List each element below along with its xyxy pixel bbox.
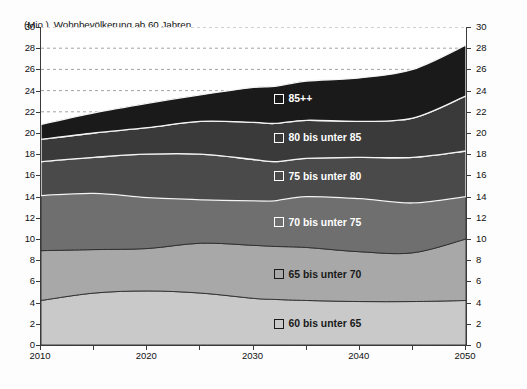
- y-axis-tick-label: 10: [9, 234, 35, 244]
- y-axis-tick-label: 24: [9, 86, 35, 96]
- y-axis-tick-mark: [466, 175, 471, 176]
- y-axis-tick-mark: [36, 27, 41, 28]
- y-axis-tick-label: 16: [9, 170, 35, 180]
- y-axis-tick-mark: [36, 281, 41, 282]
- y-axis-tick-mark: [466, 27, 471, 28]
- y-axis-tick-label: 4: [9, 298, 35, 308]
- legend-item-2[interactable]: 65 bis unter 70: [274, 269, 362, 280]
- y-axis-tick-mark: [36, 69, 41, 70]
- y-axis-tick-label: 22: [9, 107, 35, 117]
- y-axis-tick-label: 28: [476, 43, 502, 53]
- y-axis-tick-mark: [466, 112, 471, 113]
- x-axis-tick-label: 2050: [445, 351, 485, 361]
- y-axis-tick-label: 8: [476, 255, 502, 265]
- y-axis-tick-mark: [36, 324, 41, 325]
- y-axis-tick-mark: [466, 239, 471, 240]
- y-axis-tick-label: 0: [9, 340, 35, 350]
- legend-label: 80 bis unter 85: [289, 132, 362, 143]
- y-axis-tick-mark: [36, 48, 41, 49]
- y-axis-tick-label: 24: [476, 86, 502, 96]
- y-axis-tick-mark: [466, 154, 471, 155]
- x-axis-tick-mark: [465, 346, 466, 350]
- y-axis-tick-mark: [466, 133, 471, 134]
- y-axis-tick-label: 12: [9, 213, 35, 223]
- legend-swatch-icon: [274, 171, 284, 181]
- x-axis-tick-label: 2030: [233, 351, 273, 361]
- y-axis-tick-label: 18: [476, 149, 502, 159]
- legend-swatch-icon: [274, 269, 284, 279]
- y-axis-tick-label: 14: [476, 192, 502, 202]
- y-axis-tick-label: 30: [476, 22, 502, 32]
- y-axis-tick-mark: [466, 345, 471, 346]
- y-axis-tick-mark: [36, 239, 41, 240]
- legend-swatch-icon: [274, 133, 284, 143]
- y-axis-tick-mark: [466, 69, 471, 70]
- legend-swatch-icon: [274, 94, 284, 104]
- x-axis-tick-mark: [412, 346, 413, 350]
- x-axis-tick-label: 2040: [339, 351, 379, 361]
- y-axis-tick-mark: [466, 197, 471, 198]
- area-stack: [41, 27, 466, 345]
- legend-item-3[interactable]: 70 bis unter 75: [274, 217, 362, 228]
- legend-label: 75 bis unter 80: [289, 171, 362, 182]
- legend-label: 65 bis unter 70: [289, 269, 362, 280]
- y-axis-tick-mark: [36, 112, 41, 113]
- legend-item-1[interactable]: 60 bis unter 65: [274, 318, 362, 329]
- legend-label: 70 bis unter 75: [289, 217, 362, 228]
- legend-item-5[interactable]: 80 bis unter 85: [274, 132, 362, 143]
- y-axis-tick-label: 12: [476, 213, 502, 223]
- y-axis-tick-label: 26: [9, 64, 35, 74]
- x-axis-tick-mark: [146, 346, 147, 350]
- legend-item-6[interactable]: 85++: [274, 93, 313, 104]
- y-axis-tick-label: 16: [476, 170, 502, 180]
- y-axis-tick-label: 4: [476, 298, 502, 308]
- y-axis-tick-mark: [466, 303, 471, 304]
- y-axis-tick-mark: [36, 303, 41, 304]
- y-axis-tick-label: 28: [9, 43, 35, 53]
- y-axis-tick-label: 20: [9, 128, 35, 138]
- legend-label: 85++: [289, 93, 313, 104]
- y-axis-tick-mark: [36, 260, 41, 261]
- x-axis-tick-mark: [306, 346, 307, 350]
- y-axis-tick-mark: [466, 260, 471, 261]
- legend-swatch-icon: [274, 319, 284, 329]
- y-axis-tick-label: 14: [9, 192, 35, 202]
- y-axis-tick-mark: [466, 48, 471, 49]
- x-axis-tick-mark: [40, 346, 41, 350]
- x-axis-tick-label: 2020: [126, 351, 166, 361]
- legend-label: 60 bis unter 65: [289, 318, 362, 329]
- y-axis-tick-label: 6: [9, 276, 35, 286]
- x-axis-tick-mark: [93, 346, 94, 350]
- y-axis-tick-label: 8: [9, 255, 35, 265]
- chart-figure: (Mio.)Wohnbevölkerung ab 60 Jahren 02468…: [0, 0, 527, 389]
- y-axis-tick-mark: [36, 133, 41, 134]
- y-axis-tick-label: 22: [476, 107, 502, 117]
- y-axis-tick-mark: [36, 197, 41, 198]
- y-axis-tick-label: 2: [476, 319, 502, 329]
- y-axis-tick-mark: [466, 324, 471, 325]
- y-axis-tick-mark: [36, 175, 41, 176]
- y-axis-tick-label: 30: [9, 22, 35, 32]
- x-axis-tick-label: 2010: [20, 351, 60, 361]
- y-axis-tick-mark: [466, 91, 471, 92]
- y-axis-tick-mark: [466, 218, 471, 219]
- y-axis-tick-mark: [466, 281, 471, 282]
- y-axis-tick-label: 10: [476, 234, 502, 244]
- legend-item-4[interactable]: 75 bis unter 80: [274, 171, 362, 182]
- y-axis-tick-label: 26: [476, 64, 502, 74]
- x-axis-tick-mark: [359, 346, 360, 350]
- plot-area: [40, 27, 467, 346]
- y-axis-tick-label: 0: [476, 340, 502, 350]
- y-axis-tick-label: 2: [9, 319, 35, 329]
- y-axis-tick-mark: [36, 154, 41, 155]
- y-axis-tick-mark: [36, 218, 41, 219]
- x-axis-tick-mark: [253, 346, 254, 350]
- legend-swatch-icon: [274, 217, 284, 227]
- y-axis-tick-mark: [36, 91, 41, 92]
- y-axis-tick-label: 20: [476, 128, 502, 138]
- x-axis-tick-mark: [199, 346, 200, 350]
- y-axis-tick-label: 6: [476, 276, 502, 286]
- y-axis-tick-label: 18: [9, 149, 35, 159]
